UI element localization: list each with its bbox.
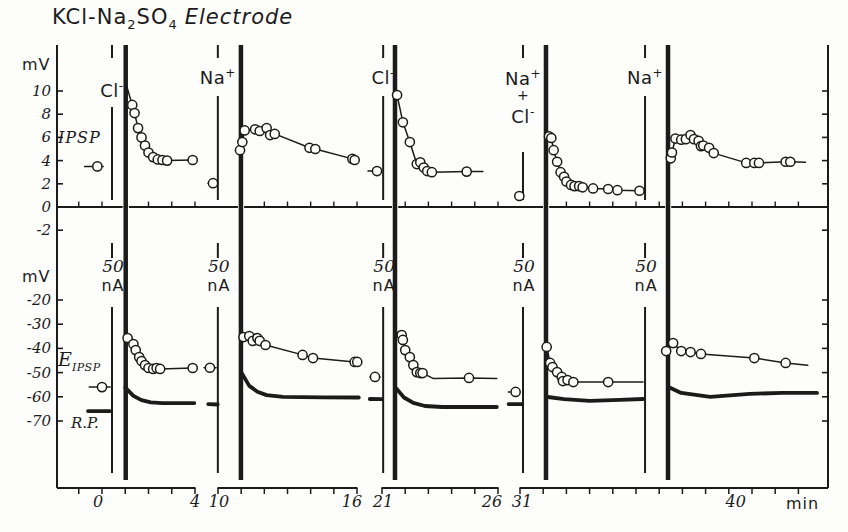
eipsp-data-point [418, 368, 427, 377]
resting-potential-trace [548, 397, 643, 401]
eipsp-data-point [298, 350, 307, 359]
chart-canvas [0, 0, 848, 532]
eipsp-data-point [662, 346, 671, 355]
ipsp-data-point [462, 167, 471, 176]
ipsp-data-point [133, 124, 142, 133]
eipsp-data-point [750, 353, 759, 362]
ipsp-data-point [372, 166, 381, 175]
ipsp-data-point [270, 129, 279, 138]
eipsp-data-point [353, 357, 362, 366]
eipsp-data-point [464, 373, 473, 382]
eipsp-data-point [696, 349, 705, 358]
eipsp-data-point [511, 387, 520, 396]
ipsp-data-point [549, 146, 558, 155]
ipsp-trace [396, 91, 483, 172]
ipsp-data-point [427, 168, 436, 177]
ipsp-data-point [613, 186, 622, 195]
figure-ipsp-electrode-chart: KCl-Na2SO4Electrode mV mV IPSP EIPSP R.P… [0, 0, 848, 532]
eipsp-data-point [156, 364, 165, 373]
eipsp-data-point [205, 363, 214, 372]
ipsp-data-point [163, 156, 172, 165]
ipsp-data-point [754, 158, 763, 167]
ipsp-data-point [588, 184, 597, 193]
ipsp-data-point [405, 137, 414, 146]
eipsp-data-point [97, 383, 106, 392]
ipsp-data-point [667, 148, 676, 157]
resting-potential-trace [125, 388, 194, 404]
ipsp-data-point [709, 148, 718, 157]
eipsp-data-point [308, 353, 317, 362]
ipsp-data-point [93, 162, 102, 171]
eipsp-data-point [604, 377, 613, 386]
eipsp-data-point [542, 342, 551, 351]
eipsp-data-point [188, 363, 197, 372]
eipsp-data-point [686, 347, 695, 356]
ipsp-data-point [350, 155, 359, 164]
ipsp-data-point [578, 183, 587, 192]
ipsp-data-point [130, 108, 139, 117]
ipsp-data-point [786, 157, 795, 166]
ipsp-data-point [515, 191, 524, 200]
eipsp-data-point [669, 338, 678, 347]
ipsp-data-point [398, 118, 407, 127]
resting-potential-trace [396, 388, 497, 407]
ipsp-data-point [311, 144, 320, 153]
ipsp-data-point [392, 90, 401, 99]
ipsp-data-point [238, 137, 247, 146]
resting-potential-trace [241, 372, 359, 397]
eipsp-data-point [781, 358, 790, 367]
ipsp-data-point [208, 179, 217, 188]
ipsp-data-point [635, 186, 644, 195]
resting-potential-trace [669, 387, 818, 397]
ipsp-data-point [553, 157, 562, 166]
eipsp-data-point [569, 377, 578, 386]
eipsp-data-point [370, 372, 379, 381]
eipsp-data-point [398, 335, 407, 344]
ipsp-data-point [604, 184, 613, 193]
eipsp-data-point [261, 340, 270, 349]
ipsp-data-point [188, 155, 197, 164]
ipsp-data-point [240, 126, 249, 135]
eipsp-data-point [677, 346, 686, 355]
ipsp-data-point [547, 133, 556, 142]
